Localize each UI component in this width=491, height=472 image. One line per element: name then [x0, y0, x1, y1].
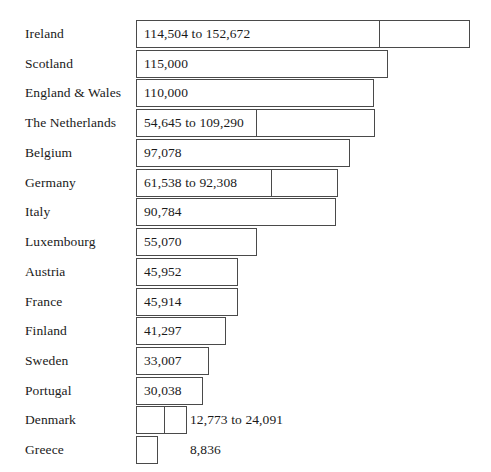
- category-label: The Netherlands: [25, 109, 116, 137]
- bar-value-label: 54,645 to 109,290: [144, 110, 244, 136]
- category-label: Scotland: [25, 50, 73, 78]
- bar-value-label: 55,070: [144, 229, 182, 255]
- bar-value-label: 45,952: [144, 259, 182, 285]
- chart-row: Germany61,538 to 92,308: [0, 169, 491, 197]
- chart-row: Scotland115,000: [0, 50, 491, 78]
- category-label: France: [25, 288, 62, 316]
- chart-row: Austria45,952: [0, 258, 491, 286]
- chart-row: Sweden33,007: [0, 347, 491, 375]
- range-divider: [379, 21, 380, 47]
- category-label: Sweden: [25, 347, 68, 375]
- bar: 114,504 to 152,672: [136, 20, 470, 48]
- bar: 41,297: [136, 317, 226, 345]
- bar-value-label: 114,504 to 152,672: [144, 21, 250, 47]
- category-label: Belgium: [25, 139, 72, 167]
- chart-row: Portugal30,038: [0, 377, 491, 405]
- bar: 45,952: [136, 258, 238, 286]
- bar: 45,914: [136, 288, 238, 316]
- category-label: Italy: [25, 198, 50, 226]
- category-label: Austria: [25, 258, 65, 286]
- bar: 54,645 to 109,290: [136, 109, 375, 137]
- bar: 110,000: [136, 79, 374, 107]
- category-label: Denmark: [25, 406, 76, 434]
- category-label: Greece: [25, 436, 64, 464]
- bar: 55,070: [136, 228, 257, 256]
- chart-row: Ireland114,504 to 152,672: [0, 20, 491, 48]
- bar-value-label: 8,836: [190, 436, 221, 464]
- category-label: Germany: [25, 169, 76, 197]
- bar-value-label: 97,078: [144, 140, 182, 166]
- chart-row: Italy90,784: [0, 198, 491, 226]
- bar: 30,038: [136, 377, 203, 405]
- bar-value-label: 90,784: [144, 199, 182, 225]
- bar-value-label: 45,914: [144, 289, 182, 315]
- category-label: Portugal: [25, 377, 72, 405]
- range-divider: [256, 110, 257, 136]
- bar: 33,007: [136, 347, 209, 375]
- chart-row: France45,914: [0, 288, 491, 316]
- bar-value-label: 30,038: [144, 378, 182, 404]
- bar: 97,078: [136, 139, 350, 167]
- chart-row: The Netherlands54,645 to 109,290: [0, 109, 491, 137]
- bar-value-label: 110,000: [144, 80, 188, 106]
- category-label: Finland: [25, 317, 67, 345]
- chart-row: Denmark12,773 to 24,091: [0, 406, 491, 434]
- category-label: Luxembourg: [25, 228, 96, 256]
- chart-row: England & Wales110,000: [0, 79, 491, 107]
- bar-value-label: 33,007: [144, 348, 182, 374]
- range-divider: [164, 407, 165, 433]
- bar: 61,538 to 92,308: [136, 169, 338, 197]
- chart-row: Belgium97,078: [0, 139, 491, 167]
- bar-value-label: 41,297: [144, 318, 182, 344]
- bar-chart: Ireland114,504 to 152,672Scotland115,000…: [0, 0, 491, 472]
- bar: [136, 406, 187, 434]
- bar: 90,784: [136, 198, 336, 226]
- bar-value-label: 115,000: [144, 51, 188, 77]
- category-label: Ireland: [25, 20, 64, 48]
- chart-row: Luxembourg55,070: [0, 228, 491, 256]
- bar-value-label: 61,538 to 92,308: [144, 170, 237, 196]
- bar: 115,000: [136, 50, 388, 78]
- range-divider: [271, 170, 272, 196]
- category-label: England & Wales: [25, 79, 121, 107]
- chart-row: Greece8,836: [0, 436, 491, 464]
- chart-row: Finland41,297: [0, 317, 491, 345]
- bar: [136, 436, 158, 464]
- bar-value-label: 12,773 to 24,091: [190, 406, 283, 434]
